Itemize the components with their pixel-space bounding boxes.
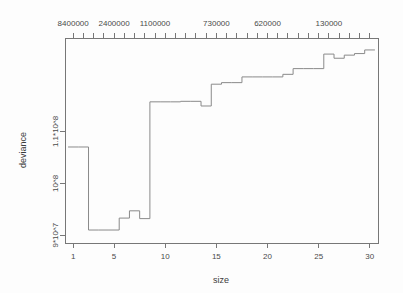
x-tick-label: 10 — [161, 252, 170, 261]
top-tick-label: 2400000 — [99, 19, 131, 28]
x-axis-title: size — [213, 275, 229, 285]
x-tick-label: 30 — [365, 252, 374, 261]
bottom-axis-ticks — [73, 243, 370, 248]
top-tick-label: 730000 — [203, 19, 230, 28]
top-tick-label: 620000 — [254, 19, 281, 28]
plot-frame — [65, 38, 378, 243]
y-tick-label: 10^8 — [51, 174, 60, 192]
deviance-vs-size-chart: 840000024000001100000730000620000130000 … — [0, 0, 403, 293]
y-tick-label: 9*10^7 — [51, 222, 60, 247]
top-axis-tick-labels: 840000024000001100000730000620000130000 — [58, 19, 343, 28]
top-axis-ticks — [73, 33, 370, 38]
deviance-step-line — [68, 50, 375, 230]
x-tick-label: 15 — [212, 252, 221, 261]
top-tick-label: 130000 — [316, 19, 343, 28]
left-axis-tick-labels: 9*10^710^81.1*10^8 — [51, 115, 60, 247]
left-axis-ticks — [60, 131, 65, 235]
y-tick-label: 1.1*10^8 — [51, 115, 60, 147]
top-tick-label: 1100000 — [140, 19, 171, 28]
x-tick-label: 20 — [263, 252, 272, 261]
chart-page: 840000024000001100000730000620000130000 … — [0, 0, 403, 293]
y-axis-title: deviance — [18, 132, 28, 168]
x-tick-label: 5 — [112, 252, 117, 261]
bottom-axis-tick-labels: 151015202530 — [71, 252, 375, 261]
top-tick-label: 8400000 — [58, 19, 90, 28]
x-tick-label: 25 — [314, 252, 323, 261]
x-tick-label: 1 — [71, 252, 76, 261]
